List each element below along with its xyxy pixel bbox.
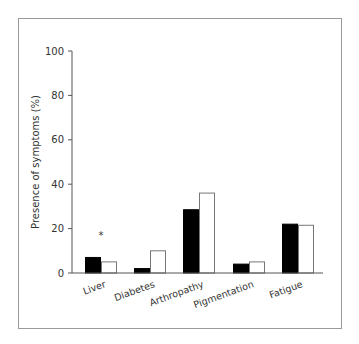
y-tick-label: 100	[45, 46, 64, 57]
y-tick-label: 0	[58, 268, 64, 279]
bars: *	[86, 193, 314, 273]
x-axis: LiverDiabetesArthropathyPigmentationFati…	[72, 273, 323, 310]
category-label: Liver	[81, 278, 107, 296]
bar	[151, 251, 166, 273]
bar	[184, 210, 199, 273]
bar	[135, 269, 150, 273]
y-axis: 020406080100	[45, 46, 72, 279]
y-tick-label: 60	[51, 134, 64, 145]
bar	[283, 224, 298, 273]
bar	[102, 262, 117, 273]
bar-chart: 020406080100 * LiverDiabetesArthropathyP…	[0, 0, 359, 344]
bar	[86, 257, 101, 273]
y-axis-title: Presence of symptoms (%)	[30, 95, 41, 229]
y-tick-label: 20	[51, 223, 64, 234]
y-tick-label: 80	[51, 90, 64, 101]
significance-asterisk: *	[99, 230, 104, 241]
y-tick-label: 40	[51, 179, 64, 190]
bar	[250, 262, 265, 273]
bar	[234, 264, 249, 273]
bar	[200, 193, 215, 273]
category-label: Fatigue	[268, 278, 304, 300]
bar	[299, 225, 314, 273]
